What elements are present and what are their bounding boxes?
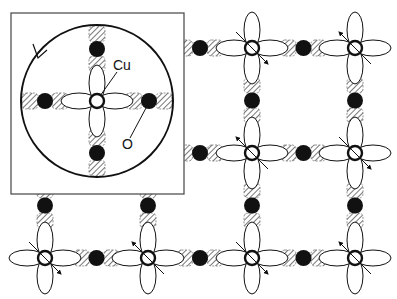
oxygen-atom [89,41,105,57]
copper-site [216,117,288,189]
lattice-canvas [0,0,397,299]
oxygen-site [347,183,363,228]
oxygen-atom [296,250,312,266]
oxygen-atom [192,250,208,266]
oxygen-atom [296,145,312,161]
cu-label: Cu [113,58,131,72]
oxygen-p-orbital-lobe [156,93,172,109]
oxygen-atom [347,198,363,214]
oxygen-atom [141,93,157,109]
oxygen-atom [244,93,260,109]
copper-site [216,222,288,294]
oxygen-site [244,78,260,123]
oxygen-atom [192,40,208,56]
oxygen-p-orbital-lobe [22,93,38,109]
copper-site [9,222,81,294]
oxygen-site [244,183,260,228]
copper-atom [90,94,104,108]
oxygen-atom [244,198,260,214]
copper-site [319,12,391,84]
inset-panel [11,13,184,194]
oxygen-atom [37,93,53,109]
oxygen-atom [89,250,105,266]
oxygen-p-orbital-lobe [89,160,105,176]
copper-site [319,222,391,294]
oxygen-atom [296,40,312,56]
copper-site [319,117,391,189]
oxygen-p-orbital-lobe [89,26,105,42]
o-label: O [122,137,133,151]
cuo2-lattice-diagram: Cu O [0,0,397,299]
copper-site [112,222,184,294]
oxygen-atom [89,145,105,161]
oxygen-atom [140,198,156,214]
oxygen-atom [347,93,363,109]
copper-site [216,12,288,84]
oxygen-atom [192,145,208,161]
oxygen-site [347,78,363,123]
oxygen-atom [37,198,53,214]
